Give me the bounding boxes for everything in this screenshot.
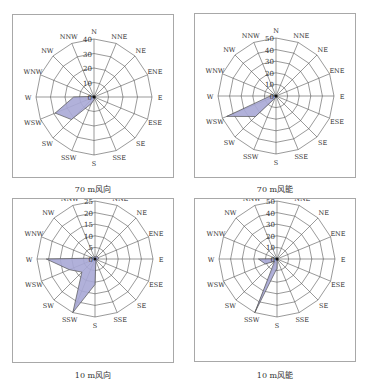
direction-label-ese: ESE [148,119,162,127]
direction-label-sse: SSE [294,153,308,161]
direction-label-wsw: WSW [25,281,43,289]
direction-label-nne: NNE [112,199,128,203]
radar-plot: 010203040NNNENEENEEESESESSESSSWSWWSWWWNW… [13,15,173,177]
direction-label-wnw: WNW [206,230,225,238]
caption-70m-energy: 70 m风能 [195,183,355,194]
direction-label-ssw: SSW [62,316,78,324]
direction-label-ssw: SSW [243,153,259,161]
direction-label-e: E [341,256,346,264]
direction-label-wnw: WNW [24,230,43,238]
direction-label-ssw: SSW [244,316,260,324]
direction-label-nw: NW [224,209,237,217]
direction-label-se: SE [319,302,328,310]
direction-label-ene: ENE [329,67,344,75]
ring-tick-label: 0 [89,256,93,264]
wind-rose-10m-energy: 01020304050NNNENEENEEESESESSESSSWSWWSWWW… [194,198,356,362]
ring-tick-label: 30 [265,58,274,66]
ring-tick-label: 10 [266,244,275,252]
direction-label-w: W [208,256,215,264]
direction-label-wnw: WNW [23,68,42,76]
caption-10m-energy: 10 m风能 [195,369,355,380]
data-series-polygon [46,257,98,313]
ring-tick-label: 5 [89,244,93,252]
direction-label-ene: ENE [330,230,345,238]
direction-label-ese: ESE [331,281,345,289]
direction-label-s: S [274,159,278,167]
direction-label-s: S [92,160,96,168]
direction-label-ne: NE [136,209,147,217]
direction-label-e: E [158,94,163,102]
direction-label-nnw: NNW [60,33,78,41]
direction-label-se: SE [137,302,146,310]
direction-label-sse: SSE [112,154,126,162]
direction-label-s: S [275,322,279,330]
direction-label-wsw: WSW [24,119,42,127]
ring-tick-label: 40 [265,47,274,55]
ring-tick-label: 0 [271,256,275,264]
direction-label-e: E [340,93,345,101]
direction-label-nne: NNE [293,32,309,40]
caption-70m-direction: 70 m风向 [13,183,173,194]
direction-label-ene: ENE [147,68,162,76]
ring-tick-label: 10 [83,80,92,88]
ring-tick-label: 30 [83,51,92,59]
ring-tick-label: 15 [84,221,93,229]
direction-label-ssw: SSW [61,154,77,162]
direction-label-w: W [25,94,32,102]
direction-label-nw: NW [223,46,236,54]
direction-label-wsw: WSW [206,118,224,126]
direction-label-ne: NE [318,209,329,217]
ring-tick-label: 40 [266,210,275,218]
wind-rose-10m-direction: 0510152025NNNENEENEEESESESSESSSWSWWSWWWN… [12,198,174,363]
direction-label-n: N [91,28,97,36]
direction-label-sw: SW [224,139,235,147]
ring-tick-label: 0 [88,94,92,102]
direction-label-w: W [26,256,33,264]
ring-tick-label: 10 [265,81,274,89]
ring-tick-label: 20 [84,210,93,218]
ring-tick-label: 50 [265,35,274,43]
ring-tick-label: 10 [84,233,93,241]
ring-tick-label: 25 [84,199,93,206]
direction-label-sw: SW [43,302,54,310]
direction-label-ese: ESE [149,281,163,289]
ring-tick-label: 50 [266,199,275,206]
ring-tick-label: 40 [83,36,92,44]
direction-label-se: SE [318,139,327,147]
direction-label-ne: NE [317,46,328,54]
direction-label-s: S [93,322,97,330]
direction-label-w: W [207,93,214,101]
direction-label-nnw: NNW [61,199,79,203]
wind-rose-70m-direction: 010203040NNNENEENEEESESESSESSSWSWWSWWWNW… [12,14,174,178]
ring-tick-label: 30 [266,221,275,229]
direction-label-sw: SW [225,302,236,310]
radar-plot: 01020304050NNNENEENEEESESESSESSSWSWWSWWW… [195,14,355,177]
direction-label-ese: ESE [330,118,344,126]
direction-label-sse: SSE [113,316,127,324]
direction-label-nne: NNE [294,199,310,203]
caption-10m-direction: 10 m风向 [13,369,173,380]
ring-tick-label: 20 [265,70,274,78]
ring-tick-label: 20 [266,233,275,241]
direction-label-e: E [159,256,164,264]
direction-label-sw: SW [42,140,53,148]
wind-rose-70m-energy: 01020304050NNNENEENEEESESESSESSSWSWWSWWW… [194,13,356,178]
radar-plot: 0510152025NNNENEENEEESESESSESSSWSWWSWWWN… [13,199,173,362]
direction-label-n: N [273,27,279,35]
direction-label-nw: NW [42,209,55,217]
ring-tick-label: 20 [83,65,92,73]
direction-label-nnw: NNW [243,199,261,203]
direction-label-ene: ENE [148,230,163,238]
direction-label-se: SE [136,140,145,148]
ring-tick-label: 0 [270,93,274,101]
radar-plot: 01020304050NNNENEENEEESESESSESSSWSWWSWWW… [195,199,355,361]
direction-label-sse: SSE [295,316,309,324]
direction-label-nw: NW [41,47,54,55]
direction-label-wsw: WSW [207,281,225,289]
direction-label-wnw: WNW [205,67,224,75]
direction-label-ne: NE [135,47,146,55]
direction-label-nnw: NNW [242,32,260,40]
direction-label-nne: NNE [111,33,127,41]
